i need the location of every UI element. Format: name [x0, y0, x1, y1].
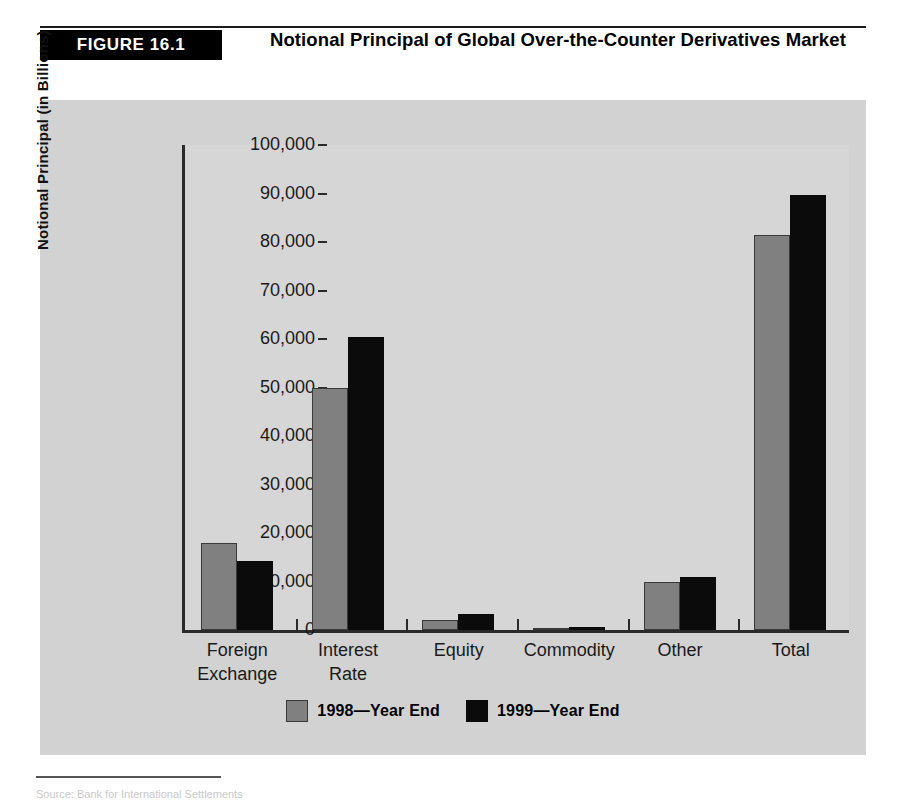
chart-legend: 1998—Year End1999—Year End	[40, 700, 866, 722]
bar-group	[406, 145, 517, 630]
figure-header: FIGURE 16.1 Notional Principal of Global…	[40, 26, 866, 88]
x-axis-label-line: Foreign	[182, 639, 293, 663]
bar-1999	[680, 577, 716, 630]
bar-1998	[201, 543, 237, 630]
figure-number-badge: FIGURE 16.1	[40, 30, 222, 60]
bar-1999	[790, 195, 826, 630]
x-axis-label-line: Exchange	[182, 663, 293, 687]
x-axis-labels: ForeignExchangeInterestRateEquityCommodi…	[182, 635, 846, 695]
x-axis-label: Other	[625, 639, 736, 663]
bar-1998	[312, 388, 348, 631]
x-axis-label-line: Commodity	[514, 639, 625, 663]
legend-label: 1998—Year End	[317, 702, 440, 720]
legend-label: 1999—Year End	[497, 702, 620, 720]
legend-swatch	[466, 700, 488, 722]
x-axis-label: ForeignExchange	[182, 639, 293, 687]
bar-1999	[237, 561, 273, 630]
bar-1998	[422, 620, 458, 630]
bar-group	[185, 145, 296, 630]
x-group-separator	[296, 619, 298, 630]
bar-1999	[458, 614, 494, 630]
x-group-separator	[738, 619, 740, 630]
bar-1999	[569, 627, 605, 630]
x-axis-label: Equity	[403, 639, 514, 663]
x-axis-label-line: Rate	[293, 663, 404, 687]
bar-1998	[754, 235, 790, 630]
x-axis-label: Total	[735, 639, 846, 663]
y-axis-title: Notional Principal (in Billions)	[34, 30, 51, 250]
bars-layer	[185, 145, 849, 630]
plot-area: 100,00090,00080,00070,00060,00050,00040,…	[182, 145, 849, 633]
bar-1998	[533, 628, 569, 630]
bar-group	[296, 145, 407, 630]
x-group-separator	[628, 619, 630, 630]
x-axis-label-line: Total	[735, 639, 846, 663]
x-axis-label-line: Interest	[293, 639, 404, 663]
bar-group	[738, 145, 849, 630]
figure-title: Notional Principal of Global Over-the-Co…	[270, 28, 866, 52]
x-axis-label: InterestRate	[293, 639, 404, 687]
chart-panel: Notional Principal (in Billions) 100,000…	[40, 100, 866, 755]
legend-item: 1999—Year End	[466, 700, 620, 722]
x-axis-label: Commodity	[514, 639, 625, 663]
x-group-separator	[406, 619, 408, 630]
source-divider	[36, 776, 221, 778]
bar-1998	[644, 582, 680, 631]
x-group-separator	[517, 619, 519, 630]
bar-group	[517, 145, 628, 630]
bar-1999	[348, 337, 384, 630]
bar-group	[628, 145, 739, 630]
x-axis-label-line: Other	[625, 639, 736, 663]
x-axis-label-line: Equity	[403, 639, 514, 663]
source-note: Source: Bank for International Settlemen…	[36, 788, 536, 800]
legend-item: 1998—Year End	[286, 700, 440, 722]
legend-swatch	[286, 700, 308, 722]
